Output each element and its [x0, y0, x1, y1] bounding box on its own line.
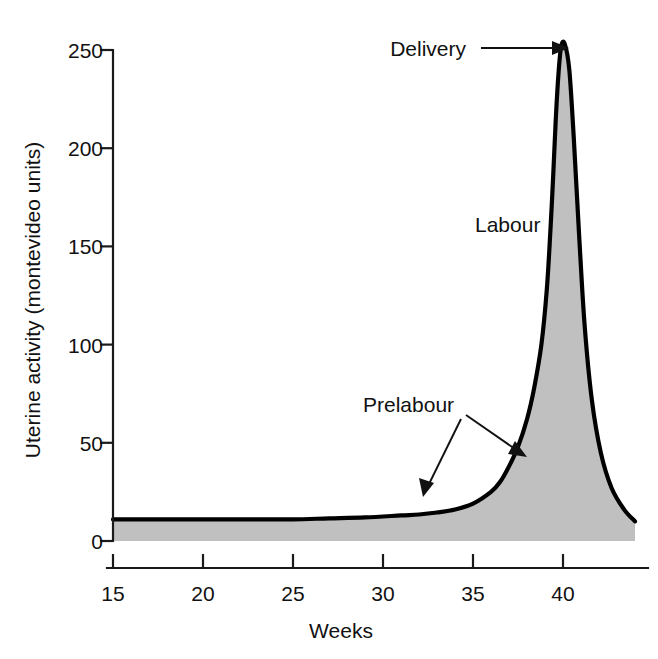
y-axis-ticks — [100, 50, 113, 541]
x-axis-title: Weeks — [309, 619, 373, 642]
x-tick-label-30: 30 — [371, 582, 394, 605]
x-axis-ticks — [113, 554, 563, 568]
x-tick-label-20: 20 — [191, 582, 214, 605]
x-tick-label-40: 40 — [551, 582, 574, 605]
annotation-label-prelabour: Prelabour — [363, 393, 454, 416]
prelabour-leader-line-right — [466, 415, 515, 449]
y-tick-label-0: 0 — [91, 530, 103, 553]
uterine-activity-figure: 250 200 150 100 50 0 15 20 25 30 35 40 U… — [0, 0, 658, 659]
chart-canvas: 250 200 150 100 50 0 15 20 25 30 35 40 U… — [0, 0, 658, 659]
y-tick-label-100: 100 — [68, 334, 103, 357]
y-axis-title: Uterine activity (montevideo units) — [21, 142, 44, 458]
y-tick-label-50: 50 — [80, 432, 103, 455]
annotation-label-delivery: Delivery — [390, 37, 466, 60]
x-tick-label-35: 35 — [461, 582, 484, 605]
x-tick-label-15: 15 — [101, 582, 124, 605]
annotation-label-labour: Labour — [475, 213, 540, 236]
y-tick-label-200: 200 — [68, 137, 103, 160]
x-tick-label-25: 25 — [281, 582, 304, 605]
prelabour-arrow-head-left — [419, 478, 434, 497]
prelabour-leader-line-left — [429, 419, 461, 484]
y-tick-label-250: 250 — [68, 39, 103, 62]
y-tick-label-150: 150 — [68, 235, 103, 258]
